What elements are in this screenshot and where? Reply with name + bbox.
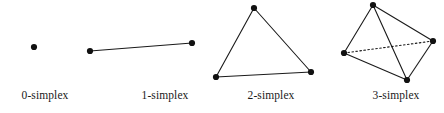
edge	[344, 5, 373, 53]
edge	[90, 43, 192, 51]
vertex	[308, 69, 314, 75]
panel-3-simplex-label: 3-simplex	[373, 89, 420, 101]
vertex	[251, 5, 257, 11]
panel-2-simplex	[213, 5, 314, 80]
hidden-edge	[344, 41, 433, 53]
panel-0-simplex-label: 0-simplex	[22, 89, 69, 101]
vertex	[370, 2, 376, 8]
vertex	[31, 44, 37, 50]
edge	[254, 8, 311, 72]
panel-3-simplex	[341, 2, 436, 83]
panel-1-simplex-label: 1-simplex	[142, 89, 189, 101]
vertex	[404, 77, 410, 83]
edge	[373, 5, 433, 41]
simplex-diagram: 0-simplex1-simplex2-simplex3-simplex	[0, 0, 444, 113]
edge	[407, 41, 433, 80]
vertex	[87, 48, 93, 54]
edge	[216, 72, 311, 77]
edge	[373, 5, 407, 80]
panel-0-simplex	[31, 44, 37, 50]
edge	[216, 8, 254, 77]
panel-2-simplex-label: 2-simplex	[248, 89, 295, 101]
vertex	[430, 38, 436, 44]
edge	[344, 53, 407, 80]
vertex	[341, 50, 347, 56]
panel-1-simplex	[87, 40, 195, 54]
vertex	[213, 74, 219, 80]
vertex	[189, 40, 195, 46]
